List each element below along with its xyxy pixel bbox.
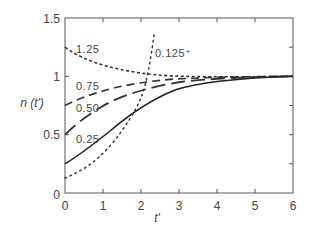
x-tick-label: 2: [138, 199, 145, 213]
x-tick-label: 0: [62, 199, 69, 213]
y-tick-label: 0.5: [43, 128, 60, 142]
x-ticks: [103, 18, 255, 193]
x-tick-label: 3: [176, 199, 183, 213]
series-label-0-50: 0.50: [76, 102, 99, 114]
x-tick-label: 4: [214, 199, 221, 213]
y-tick-label: 1.5: [43, 12, 60, 26]
series-label-0-75: 0.75: [76, 80, 99, 92]
chart-canvas: 0 1 2 3 4 5 6 0 0.5 1 1.5 t' n (t') 1.25…: [0, 0, 310, 229]
y-tick-label: 1: [53, 70, 60, 84]
x-tick-label: 6: [290, 199, 297, 213]
series-label-0-25: 0.25: [76, 133, 99, 145]
x-tick-label: 5: [252, 199, 259, 213]
series-label-0-125: 0.125⁺: [155, 47, 192, 59]
y-axis-label: n (t'): [20, 96, 44, 110]
y-tick-label: 0: [53, 188, 60, 202]
x-tick-label: 1: [100, 199, 107, 213]
x-axis-label: t': [154, 211, 160, 225]
series-label-1-25: 1.25: [76, 43, 99, 55]
